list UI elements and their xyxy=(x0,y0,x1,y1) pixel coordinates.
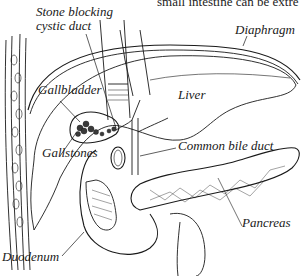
anatomy-illustration: small intestine can be extre xyxy=(0,0,308,276)
label-diaphragm: Diaphragm xyxy=(235,23,295,37)
abdominal-wall xyxy=(5,34,30,270)
label-liver: Liver xyxy=(178,88,205,102)
gallstones-cluster xyxy=(76,121,117,137)
label-common-bile-duct: Common bile duct xyxy=(178,139,273,153)
label-gallbladder: Gallbladder xyxy=(38,83,102,97)
label-duodenum: Duodenum xyxy=(2,250,59,264)
label-pancreas: Pancreas xyxy=(242,216,291,230)
label-stone-blocking: Stone blocking cystic duct xyxy=(36,5,113,33)
label-stone-blocking-line2: cystic duct xyxy=(36,19,113,33)
label-gallstones: Gallstones xyxy=(42,146,98,160)
label-stone-blocking-line1: Stone blocking xyxy=(36,5,113,19)
pancreas-outline xyxy=(131,148,299,210)
